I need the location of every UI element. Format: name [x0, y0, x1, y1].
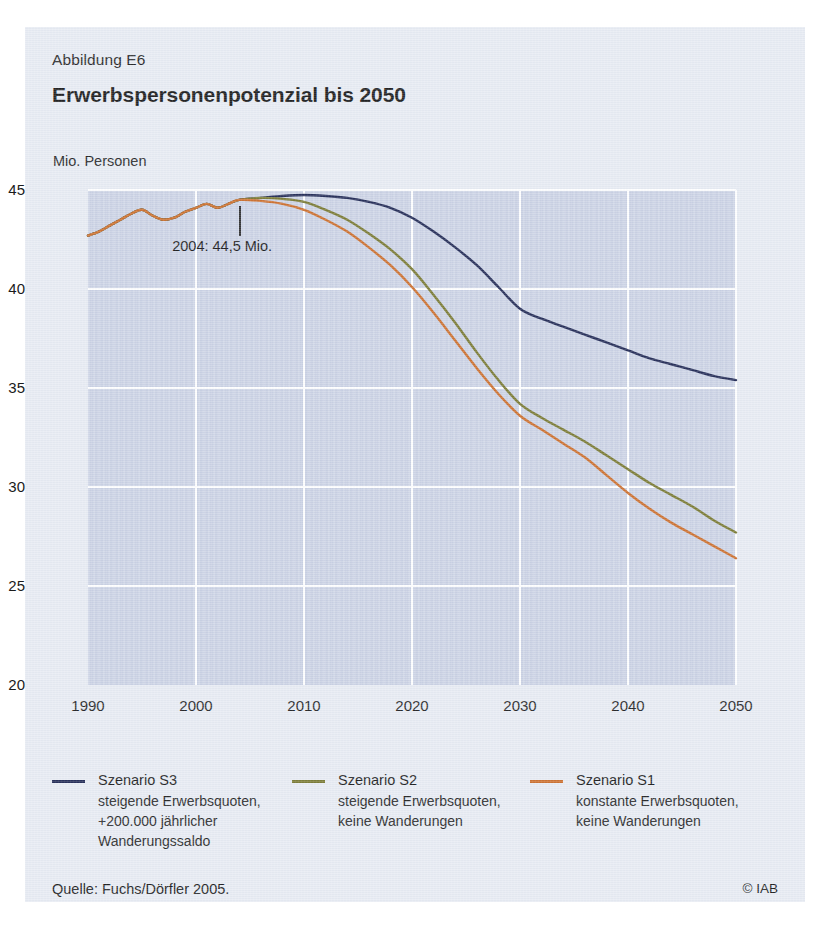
x-axis-tick: 2020 — [372, 697, 452, 714]
x-axis-tick: 2010 — [264, 697, 344, 714]
y-axis-tick: 40 — [0, 280, 25, 297]
figure-panel: Abbildung E6 Erwerbspersonenpotenzial bi… — [25, 27, 805, 902]
source-note: Quelle: Fuchs/Dörfler 2005. — [52, 881, 229, 897]
copyright-note: © IAB — [743, 881, 778, 896]
x-axis-tick: 2000 — [156, 697, 236, 714]
annotation-tick-line — [239, 206, 241, 236]
legend-desc-s2-line2: keine Wanderungen — [338, 811, 530, 831]
x-axis-tick: 1990 — [48, 697, 128, 714]
legend-desc-s1-line1: konstante Erwerbsquoten, — [576, 791, 770, 811]
legend-item-s2: Szenario S2 steigende Erwerbsquoten, kei… — [292, 771, 530, 851]
legend-desc-s2-line1: steigende Erwerbsquoten, — [338, 791, 530, 811]
legend-desc-s3-line1: steigende Erwerbsquoten, — [98, 791, 292, 811]
x-axis-tick: 2040 — [588, 697, 668, 714]
legend-item-s3: Szenario S3 steigende Erwerbsquoten, +20… — [52, 771, 292, 851]
y-axis-tick: 25 — [0, 577, 25, 594]
legend-desc-s3-line3: Wanderungssaldo — [98, 831, 292, 851]
y-axis-unit-label: Mio. Personen — [53, 153, 147, 169]
legend-swatch-s1 — [530, 780, 563, 783]
x-axis-tick: 2050 — [696, 697, 776, 714]
annotation-2004: 2004: 44,5 Mio. — [172, 238, 272, 254]
legend-desc-s3-line2: +200.000 jährlicher — [98, 811, 292, 831]
y-axis-tick: 20 — [0, 676, 25, 693]
legend-desc-s1-line2: keine Wanderungen — [576, 811, 770, 831]
legend-label-s3: Szenario S3 — [98, 771, 292, 790]
legend-swatch-s3 — [52, 780, 85, 783]
figure-label: Abbildung E6 — [52, 51, 145, 69]
x-axis-tick: 2030 — [480, 697, 560, 714]
y-axis-tick: 30 — [0, 478, 25, 495]
legend-label-s1: Szenario S1 — [576, 771, 770, 790]
chart-legend: Szenario S3 steigende Erwerbsquoten, +20… — [52, 771, 792, 851]
legend-swatch-s2 — [292, 780, 325, 783]
chart-series-lines — [88, 190, 736, 685]
page-title: Erwerbspersonenpotenzial bis 2050 — [52, 83, 406, 107]
y-axis-tick: 45 — [0, 181, 25, 198]
chart-plot-area: 2004: 44,5 Mio. 202530354045 19902000201… — [88, 190, 736, 685]
y-axis-tick: 35 — [0, 379, 25, 396]
legend-item-s1: Szenario S1 konstante Erwerbsquoten, kei… — [530, 771, 770, 851]
legend-label-s2: Szenario S2 — [338, 771, 530, 790]
